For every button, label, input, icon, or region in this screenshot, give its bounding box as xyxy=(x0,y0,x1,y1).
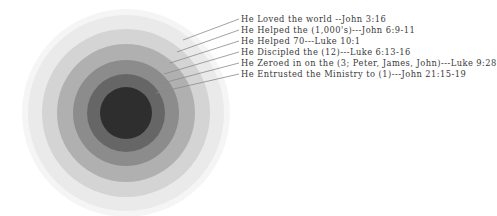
ring-7 xyxy=(100,87,152,139)
leader-line xyxy=(183,19,239,40)
label-helped-70: He Helped 70---Luke 10:1 xyxy=(241,36,361,47)
ring-group xyxy=(22,9,230,216)
label-zeroed-3: He Zeroed in on the (3; Peter, James, Jo… xyxy=(241,58,497,69)
label-loved-world: He Loved the world --John 3:16 xyxy=(241,14,386,25)
label-entrusted-1: He Entrusted the Ministry to (1)---John … xyxy=(241,69,466,80)
label-discipled-12: He Discipled the (12)---Luke 6:13-16 xyxy=(241,47,411,58)
label-helped-thousands: He Helped the (1,000's)---John 6:9-11 xyxy=(241,25,415,36)
